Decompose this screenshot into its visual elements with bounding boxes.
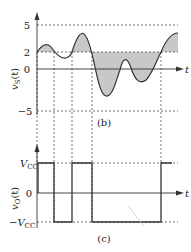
tick-vcc: VCC (20, 158, 38, 171)
tick-0: 0 (24, 64, 30, 75)
tick-minus5: −5 (18, 106, 33, 117)
t-axis-bottom-arrow-icon (176, 191, 184, 196)
output-signal-plot: VCC 0 −VCC t vO(t) (c) (9, 144, 190, 244)
scan-artifact (128, 206, 144, 226)
input-signal-plot: 5 2 0 −5 t vS(t) (b) (9, 12, 190, 128)
vo-square-wave (38, 163, 172, 222)
comparator-waveform-diagram: 5 2 0 −5 t vS(t) (b) VCC 0 −VCC t (0, 0, 191, 252)
tick-zero-bottom: 0 (26, 188, 32, 199)
tick-minus-vcc: −VCC (9, 217, 35, 230)
tick-5: 5 (24, 20, 30, 31)
caption-c: (c) (97, 233, 111, 244)
y-axis-arrow-icon (35, 12, 40, 20)
t-axis-arrow-icon (176, 67, 184, 72)
svg-text:vS(t): vS(t) (9, 68, 22, 90)
vo-axis-label: vO(t) (9, 187, 22, 210)
caption-b: (b) (97, 117, 111, 128)
svg-text:vO(t): vO(t) (9, 187, 22, 210)
vs-axis-label: vS(t) (9, 68, 22, 90)
shaded-region (37, 33, 178, 96)
t-axis-label: t (185, 64, 190, 75)
tick-2: 2 (24, 47, 30, 58)
y-axis-bottom-arrow-icon (35, 144, 40, 152)
t-axis-bottom-label: t (185, 188, 190, 199)
